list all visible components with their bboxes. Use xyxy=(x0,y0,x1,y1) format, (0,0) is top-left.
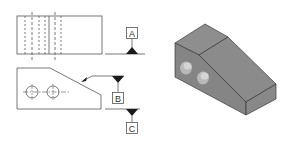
datum-c-triangle xyxy=(126,109,138,116)
front-view xyxy=(17,68,101,109)
datum-a-triangle xyxy=(126,47,138,54)
datum-b-arrowhead xyxy=(81,77,87,82)
iso-hole-1-highlight xyxy=(184,63,192,70)
datum-b-label: B xyxy=(115,94,121,104)
datum-b-symbol: B xyxy=(81,76,124,104)
technical-drawing: A B C xyxy=(0,0,294,146)
top-view xyxy=(17,12,102,60)
isometric-view xyxy=(175,24,276,115)
top-view-outline xyxy=(17,16,102,54)
datum-c-label: C xyxy=(129,124,136,134)
datum-c-symbol: C xyxy=(105,109,140,134)
datum-b-triangle xyxy=(112,76,124,83)
iso-hole-2-highlight xyxy=(201,73,209,80)
datum-a-label: A xyxy=(129,29,135,39)
front-view-outline xyxy=(17,68,101,109)
datum-a-symbol: A xyxy=(105,28,145,55)
